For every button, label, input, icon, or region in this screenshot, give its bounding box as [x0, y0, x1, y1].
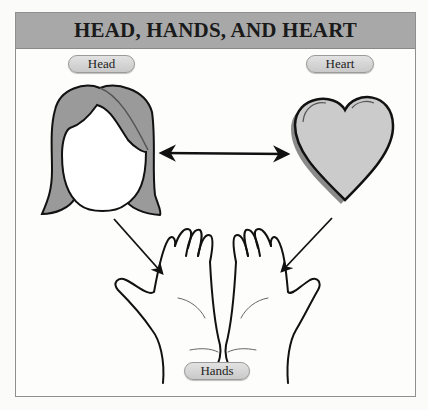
hands-icon	[116, 229, 320, 383]
arrow-head-hands	[114, 219, 162, 273]
node-label-hands: Hands	[184, 362, 250, 380]
head-icon	[42, 86, 161, 215]
arrow-head-heart	[162, 153, 287, 154]
heart-icon	[291, 97, 393, 204]
node-label-head: Head	[68, 55, 135, 73]
arrow-heart-hands	[282, 218, 332, 271]
node-label-heart: Heart	[306, 55, 374, 73]
